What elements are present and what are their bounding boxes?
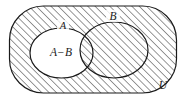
venn-diagram-canvas: A B A−B U bbox=[0, 0, 186, 101]
set-a-label: A bbox=[59, 20, 67, 31]
venn-diagram-figure: A B A−B U bbox=[0, 0, 186, 101]
region-a-minus-b-label: A−B bbox=[49, 46, 72, 58]
universe-label: U bbox=[159, 79, 168, 91]
set-b-label: B bbox=[109, 10, 116, 22]
